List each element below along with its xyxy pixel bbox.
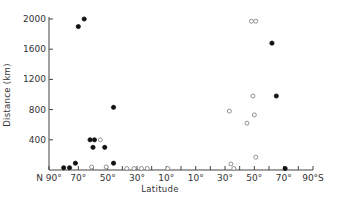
scatter-chart: 400800120016002000 N 90°70°50°30°10°10°3… — [0, 0, 343, 204]
filled-data-point — [76, 24, 80, 28]
filled-data-point — [91, 145, 95, 149]
open-data-point — [125, 166, 129, 170]
x-tick-label: 50° — [246, 173, 262, 183]
open-data-point — [104, 165, 108, 169]
filled-data-point — [274, 94, 278, 98]
y-tick-label: 2000 — [23, 14, 46, 24]
filled-data-point — [270, 41, 274, 45]
filled-data-point — [111, 161, 115, 165]
x-tick-label: 30° — [217, 173, 233, 183]
open-data-point — [227, 109, 231, 113]
filled-data-point — [82, 17, 86, 21]
y-axis: 400800120016002000 — [23, 14, 53, 170]
open-data-point — [252, 113, 256, 117]
y-tick-label: 1600 — [23, 44, 46, 54]
filled-data-point — [111, 105, 115, 109]
open-data-point — [232, 166, 236, 170]
y-axis-title: Distance (km) — [2, 63, 12, 127]
x-tick-label: N 90° — [36, 173, 62, 183]
x-tick-label: 30° — [129, 173, 145, 183]
filled-data-point — [73, 161, 77, 165]
open-data-point — [229, 162, 233, 166]
open-data-point — [166, 166, 170, 170]
y-tick-label: 1200 — [23, 74, 46, 84]
x-tick-label: 10° — [158, 173, 174, 183]
open-data-point — [245, 121, 249, 125]
y-tick-label: 800 — [29, 105, 46, 115]
open-data-point — [254, 155, 258, 159]
x-tick-label: 70° — [276, 173, 292, 183]
x-tick-label: 70° — [70, 173, 86, 183]
open-data-point — [90, 165, 94, 169]
filled-data-point — [92, 138, 96, 142]
filled-data-point — [62, 166, 66, 170]
open-data-point — [254, 19, 258, 23]
open-data-point — [251, 94, 255, 98]
open-data-point — [98, 138, 102, 142]
x-axis-title: Latitude — [141, 184, 178, 194]
filled-data-point — [88, 138, 92, 142]
open-data-point — [249, 19, 253, 23]
x-tick-label: 50° — [100, 173, 116, 183]
filled-data-point — [67, 166, 71, 170]
open-data-point — [145, 166, 149, 170]
open-data-point — [132, 166, 136, 170]
data-points — [62, 17, 288, 171]
open-data-point — [139, 166, 143, 170]
x-tick-label: 10° — [188, 173, 204, 183]
x-axis: N 90°70°50°30°10°10°30°50°70°90°S — [36, 166, 324, 183]
y-tick-label: 400 — [29, 135, 46, 145]
filled-data-point — [283, 166, 287, 170]
x-tick-label: 90°S — [302, 173, 324, 183]
filled-data-point — [103, 145, 107, 149]
